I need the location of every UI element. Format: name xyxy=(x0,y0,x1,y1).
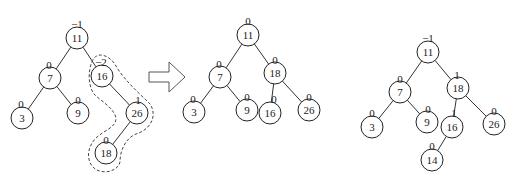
tree-edge xyxy=(227,86,240,102)
tree-edge xyxy=(282,81,301,102)
tree-edge xyxy=(466,96,486,116)
tree-node-3: 30 xyxy=(183,93,205,123)
balance-factor: 0 xyxy=(491,105,497,117)
node-key: 26 xyxy=(489,118,501,130)
balance-factor: 0 xyxy=(216,58,222,70)
tree-node-7: 70 xyxy=(209,58,231,88)
tree-edge xyxy=(407,100,419,114)
tree-node-7: 70 xyxy=(389,73,411,103)
node-key: 3 xyxy=(19,112,25,124)
balance-factor: 0 xyxy=(18,98,24,110)
tree-node-18: 180 xyxy=(264,54,286,84)
node-key: 18 xyxy=(453,82,465,94)
balance-factor: 0 xyxy=(190,93,196,105)
node-key: 3 xyxy=(369,121,375,133)
tree-node-11: 11−1 xyxy=(66,18,88,49)
node-key: 16 xyxy=(97,70,109,82)
balance-factor: 0 xyxy=(425,103,431,115)
tree-node-16: 161 xyxy=(441,107,463,138)
node-key: 16 xyxy=(265,107,277,119)
balance-factor: 1 xyxy=(451,107,457,119)
node-key: 18 xyxy=(270,67,282,79)
tree-edge xyxy=(435,60,451,79)
avl-rotation-diagram: 11−170309016−226118011070180309016026011… xyxy=(0,0,518,181)
tree-node-9: 90 xyxy=(416,103,438,133)
node-key: 11 xyxy=(243,29,254,41)
tree-node-18: 181 xyxy=(447,69,469,99)
balance-factor: 0 xyxy=(306,91,312,103)
tree-after-rotation: 110701803090160260 xyxy=(183,15,320,124)
tree-edge xyxy=(28,87,43,109)
tree-node-7: 70 xyxy=(39,59,61,89)
node-key: 3 xyxy=(191,106,197,118)
balance-factor: 0 xyxy=(369,107,375,119)
tree-node-3: 30 xyxy=(361,107,383,138)
tree-edge xyxy=(406,61,421,83)
tree-edge xyxy=(379,101,393,119)
tree-node-11: 110 xyxy=(237,15,259,46)
tree-node-9: 90 xyxy=(67,94,89,124)
balance-factor: −1 xyxy=(71,18,83,30)
balance-factor: −2 xyxy=(95,56,107,68)
node-key: 16 xyxy=(447,121,459,133)
node-key: 9 xyxy=(244,104,250,116)
node-key: 7 xyxy=(47,72,53,84)
tree-edge xyxy=(57,87,71,105)
tree-node-16: 160 xyxy=(259,93,281,124)
tree-node-26: 260 xyxy=(298,91,320,121)
tree-edge xyxy=(254,44,268,64)
tree-edge xyxy=(113,122,131,145)
balance-factor: 0 xyxy=(429,140,435,152)
tree-before: 11−170309016−2261180 xyxy=(11,18,148,164)
tree-node-14: 140 xyxy=(421,140,443,171)
tree-node-26: 260 xyxy=(483,105,505,135)
node-key: 11 xyxy=(423,46,434,58)
balance-factor: 0 xyxy=(245,15,251,27)
balance-factor: 0 xyxy=(271,93,277,105)
balance-factor: 0 xyxy=(103,134,109,146)
balance-factor: −1 xyxy=(422,32,434,44)
node-key: 9 xyxy=(424,116,430,128)
balance-factor: 0 xyxy=(397,73,403,85)
tree-edge xyxy=(201,86,214,103)
node-key: 26 xyxy=(304,104,316,116)
node-key: 9 xyxy=(75,107,81,119)
tree-edge xyxy=(56,47,71,69)
node-key: 18 xyxy=(101,147,113,159)
transform-arrow-icon xyxy=(149,62,185,92)
tree-node-26: 261 xyxy=(126,94,148,124)
node-key: 7 xyxy=(397,86,403,98)
tree-node-3: 30 xyxy=(11,98,33,129)
tree-after-insert-14: 11−1701813090161260140 xyxy=(361,32,505,171)
balance-factor: 0 xyxy=(272,54,278,66)
tree-edge xyxy=(110,84,130,105)
node-key: 14 xyxy=(427,154,439,166)
tree-node-16: 16−2 xyxy=(91,56,113,87)
node-key: 11 xyxy=(72,32,83,44)
balance-factor: 0 xyxy=(244,91,250,103)
tree-node-18: 180 xyxy=(95,134,117,164)
tree-node-9: 90 xyxy=(236,91,258,121)
tree-node-11: 11−1 xyxy=(417,32,439,63)
balance-factor: 1 xyxy=(135,94,141,106)
balance-factor: 0 xyxy=(46,59,52,71)
tree-edge xyxy=(438,136,447,150)
tree-edge xyxy=(83,47,96,67)
node-key: 26 xyxy=(132,107,144,119)
balance-factor: 0 xyxy=(75,94,81,106)
balance-factor: 1 xyxy=(454,69,460,81)
node-key: 7 xyxy=(217,71,223,83)
tree-edge xyxy=(226,44,242,68)
